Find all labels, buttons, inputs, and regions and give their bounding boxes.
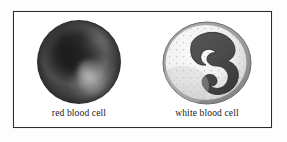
red-blood-cell-icon bbox=[37, 20, 121, 104]
blood-cells-figure: red blood cell bbox=[0, 0, 287, 142]
red-blood-cell-panel: red blood cell bbox=[14, 12, 144, 129]
white-blood-cell-panel: white blood cell bbox=[144, 12, 270, 129]
white-blood-cell-icon bbox=[161, 20, 253, 106]
red-blood-cell-label: red blood cell bbox=[14, 108, 144, 119]
red-blood-cell-rim-light bbox=[38, 21, 120, 103]
white-blood-cell-label: white blood cell bbox=[144, 108, 270, 119]
figure-frame-border: red blood cell bbox=[13, 11, 272, 128]
